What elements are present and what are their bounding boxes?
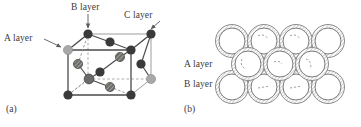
arrow-a-layer-icon [44,39,61,47]
atom-corner-front-top-left [63,45,72,54]
atom-corner-back-top-left [83,29,92,38]
fcc-unit-cell-diagram [0,0,181,127]
panel-b-caption: (b) [184,104,195,114]
atom-corner-front-bottom-left [63,90,72,99]
atom-face-bottom [105,82,114,91]
sphere [232,48,265,81]
label-panel-b-a-layer: A layer [184,59,212,69]
label-c-layer: C layer [124,10,152,20]
label-panel-b-b-layer: B layer [184,79,212,89]
atom-corner-back-bottom-right [146,74,155,83]
figure-root: A layer B layer C layer (a) [0,0,361,127]
atom-body-centre [84,74,94,84]
panel-a-caption: (a) [6,104,17,114]
sphere [264,48,297,81]
sphere [296,48,329,81]
sphere-row-middle [232,48,329,81]
panel-a-fcc-unit-cell: A layer B layer C layer (a) [0,0,181,127]
atom-face-front [95,67,104,76]
atom-face-top [105,37,114,46]
atom-face-back [115,52,124,61]
label-b-layer: B layer [71,2,99,12]
atom-corner-front-bottom-right [126,90,135,99]
atom-face-right [136,59,145,68]
label-a-layer: A layer [4,33,32,43]
arrow-c-layer-icon [151,21,160,29]
atom-corner-front-top-right [126,45,135,54]
panel-b-close-packed-layers: A layer B layer (b) [180,0,361,127]
atom-corner-back-top-right [146,29,155,38]
atom-face-left [73,59,82,68]
